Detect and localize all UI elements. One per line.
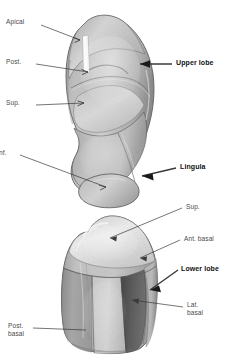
anatomy-figure: Apical Post. Sup. nf. Upper lobe Lingula… (0, 0, 227, 360)
label-lower-lobe: Lower lobe (181, 265, 219, 273)
label-anterior-basal: Ant. basal (184, 235, 214, 243)
label-upper-lobe: Upper lobe (176, 59, 214, 67)
upper-lobe-specimen (66, 15, 154, 193)
label-apical: Apical (6, 18, 24, 26)
label-posterior: Post. (6, 58, 21, 66)
lower-lobe-specimen (62, 216, 158, 354)
label-superior-lower: Sup. (186, 203, 200, 211)
leader-lingula (142, 168, 176, 176)
upper-lobe-tip-piece (79, 174, 139, 208)
label-posterior-basal: Post. basal (8, 322, 24, 337)
label-lingula: Lingula (180, 163, 206, 171)
label-lateral-basal: Lat. basal (187, 301, 203, 316)
label-superior-upper: Sup. (6, 99, 20, 107)
label-inferior: nf. (0, 149, 7, 157)
